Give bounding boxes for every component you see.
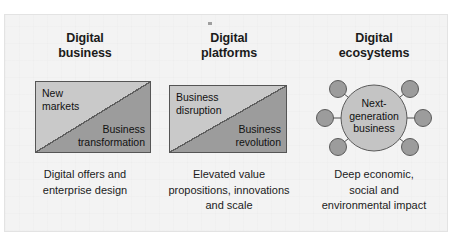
satellite-node-top-left — [330, 81, 347, 98]
split-box-digital-business: New markets Business transformation — [35, 81, 151, 153]
column-caption-digital-ecosystems: Deep economic, social and environmental … — [299, 167, 448, 214]
column-heading-digital-platforms: Digital platforms — [159, 31, 299, 61]
satellite-node-bottom-right — [402, 139, 419, 156]
box-label-business-disruption: Business disruption — [176, 91, 222, 116]
split-box-digital-platforms: Business disruption Business revolution — [169, 85, 287, 153]
box-label-business-transformation: Business transformation — [78, 123, 145, 148]
hub-and-spoke-diagram: Next- generation business — [305, 75, 443, 161]
figure-frame: Digital business New markets Business tr… — [4, 14, 448, 232]
satellite-node-bottom-left — [330, 139, 347, 156]
column-caption-digital-platforms: Elevated value propositions, innovations… — [159, 167, 299, 214]
satellite-node-left — [317, 110, 334, 127]
hub-label-next-generation-business: Next- generation business — [335, 97, 413, 135]
column-digital-business: Digital business New markets Business tr… — [11, 15, 159, 231]
satellite-node-top-right — [402, 81, 419, 98]
column-digital-ecosystems: Digital ecosystems — [299, 15, 448, 231]
box-label-new-markets: New markets — [42, 87, 79, 112]
satellite-node-right — [415, 110, 432, 127]
column-digital-platforms: Digital platforms Business disruption Bu… — [159, 15, 299, 231]
column-heading-digital-ecosystems: Digital ecosystems — [299, 31, 448, 61]
column-caption-digital-business: Digital offers and enterprise design — [11, 167, 159, 198]
column-heading-digital-business: Digital business — [11, 31, 159, 61]
box-label-business-revolution: Business revolution — [235, 123, 281, 148]
